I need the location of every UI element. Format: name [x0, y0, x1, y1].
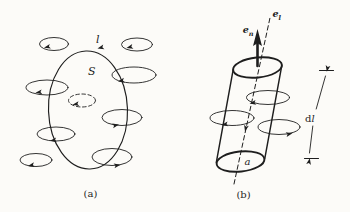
surface-label: S	[88, 65, 96, 78]
molecular-current-loop	[37, 127, 75, 143]
cylinder-right-side	[265, 66, 282, 159]
loop-ellipse	[210, 111, 254, 126]
axis-vector-subscript: l	[279, 14, 282, 22]
dimension-line-lower	[310, 126, 313, 153]
panel-a: l S	[20, 33, 156, 199]
panel-b: a en el	[210, 8, 334, 200]
normal-vector-label: en	[243, 24, 254, 38]
axis-vector-label: el	[273, 8, 282, 22]
molecular-current-loop	[122, 38, 153, 51]
panel-a-caption: (a)	[84, 188, 98, 199]
molecular-current-loop	[26, 80, 68, 95]
loop-arrowhead	[72, 101, 79, 107]
normal-vector-subscript: n	[249, 30, 254, 38]
molecular-current-loop-hidden	[69, 94, 96, 107]
length-label-l: l	[311, 113, 314, 124]
contour-label: l	[96, 33, 100, 46]
cylinder-left-side	[216, 70, 233, 163]
molecular-current-loop	[210, 111, 254, 128]
molecular-current-loop	[247, 91, 290, 106]
length-label: dl	[305, 113, 315, 124]
loop-ellipse	[92, 149, 132, 166]
loop-ellipse	[258, 120, 300, 135]
normal-vector-arrow	[253, 29, 262, 66]
molecular-current-loop	[258, 120, 300, 137]
loop-ellipse-dashed	[69, 94, 96, 107]
dimension-line-upper	[316, 76, 325, 109]
molecular-current-loop	[20, 154, 52, 169]
loop-ellipse	[26, 80, 68, 95]
loop-ellipse	[20, 154, 52, 167]
magnetization-figure: l S	[0, 0, 350, 212]
loop-ellipse	[102, 110, 142, 126]
panel-b-caption: (b)	[236, 189, 250, 200]
loop-ellipse	[40, 38, 69, 51]
loop-ellipse	[37, 127, 75, 141]
molecular-current-loop	[40, 38, 69, 51]
molecular-current-loop	[112, 67, 156, 84]
length-dimension: dl	[305, 65, 334, 165]
cross-section-label: a	[245, 156, 251, 167]
molecular-current-loop	[102, 110, 142, 129]
loop-ellipse	[122, 38, 153, 51]
dimension-arrowhead-up	[324, 65, 330, 72]
